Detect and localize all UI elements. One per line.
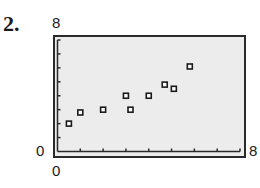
data-points	[66, 64, 192, 126]
data-point-marker	[123, 93, 128, 98]
data-point-marker	[171, 86, 176, 91]
x-axis	[58, 149, 241, 152]
data-point-marker	[162, 82, 167, 87]
data-point-marker	[187, 64, 192, 69]
data-point-marker	[128, 107, 133, 112]
data-point-marker	[101, 107, 106, 112]
data-point-marker	[78, 110, 83, 115]
y-axis	[58, 40, 61, 152]
data-point-marker	[66, 121, 71, 126]
data-point-marker	[146, 93, 151, 98]
scatter-plot	[0, 0, 260, 188]
